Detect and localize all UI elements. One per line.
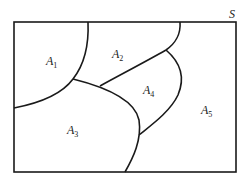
region-label-a4: A4 bbox=[142, 83, 154, 99]
region-label-a5: A5 bbox=[200, 103, 212, 119]
boundary-a3 bbox=[73, 79, 140, 172]
region-label-a3: A3 bbox=[66, 123, 78, 139]
sample-space-rectangle bbox=[14, 22, 236, 172]
venn-partition-diagram: S A1 A2 A3 A4 A5 bbox=[0, 0, 248, 184]
universe-label: S bbox=[229, 7, 235, 21]
region-label-a1: A1 bbox=[45, 54, 57, 70]
region-label-a2: A2 bbox=[111, 47, 123, 63]
